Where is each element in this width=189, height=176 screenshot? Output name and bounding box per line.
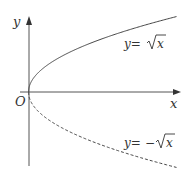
x-axis-label: x (170, 96, 178, 111)
lower-curve-label: y= − x (123, 134, 175, 150)
svg-text:y=: y= (123, 37, 141, 51)
svg-text:x: x (157, 37, 164, 51)
curve-sqrt-x (29, 17, 177, 92)
diagram-canvas: y x O y= x y= − x (0, 0, 189, 176)
upper-curve-label: y= x (123, 35, 166, 51)
origin-label: O (15, 94, 26, 109)
y-axis-arrow-icon (26, 16, 32, 25)
x-axis-arrow-icon (173, 89, 181, 95)
y-axis-label: y (12, 14, 21, 29)
svg-text:−: − (145, 136, 155, 150)
svg-text:x: x (166, 136, 173, 150)
svg-text:y=: y= (123, 136, 141, 150)
curve-neg-sqrt-x (29, 92, 177, 167)
